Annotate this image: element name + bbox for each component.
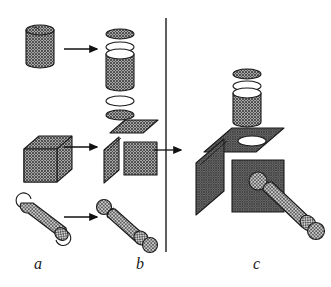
- assembly-cube-left-face: [196, 139, 227, 215]
- panel-label-b: b: [136, 255, 145, 273]
- panel-label-a: a: [34, 255, 43, 273]
- exploded-cube: [104, 120, 158, 183]
- cube-front-face: [124, 142, 157, 175]
- cylinder-body: [106, 49, 134, 91]
- cylinder-top-disc: [106, 29, 134, 39]
- cube-left-face: [104, 137, 121, 183]
- solid-rod: [16, 193, 71, 246]
- panel-a-solid-shapes: [16, 25, 72, 245]
- panel-b-exploded-shapes: [97, 29, 159, 253]
- assembly-cylinder-top-disc: [233, 69, 261, 79]
- diagram-canvas: [0, 0, 331, 287]
- assembly-cylinder-body: [233, 88, 261, 127]
- exploded-cylinder: [106, 29, 134, 120]
- assembly-rod-cap-far: [308, 223, 325, 240]
- rod-cap-far: [143, 238, 158, 253]
- panel-label-c: c: [253, 255, 261, 273]
- cylinder-bottom-ring: [106, 96, 134, 106]
- figure-root: a b c: [0, 0, 331, 287]
- panel-c-assembly: [196, 69, 325, 240]
- solid-cylinder: [26, 25, 54, 68]
- cylinder-bottom-disc: [106, 110, 134, 120]
- solid-cube: [24, 136, 72, 182]
- cube-top-face: [110, 120, 158, 133]
- exploded-rod: [97, 200, 158, 253]
- cube-socket-hole: [238, 136, 266, 146]
